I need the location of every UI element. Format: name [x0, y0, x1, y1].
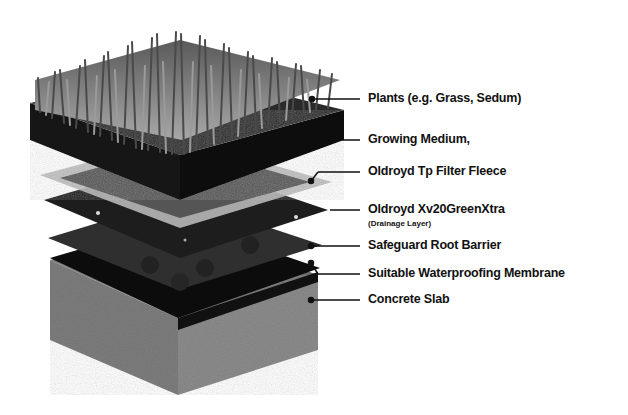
- green-roof-diagram: Plants (e.g. Grass, Sedum) Growing Mediu…: [0, 0, 628, 415]
- sublabel-drainage: (Drainage Layer): [368, 219, 431, 228]
- layer-stack-illustration: [0, 0, 628, 415]
- label-filter-fleece: Oldroyd Tp Filter Fleece: [368, 164, 506, 178]
- label-growing-medium: Growing Medium,: [368, 132, 470, 146]
- label-root-barrier: Safeguard Root Barrier: [368, 238, 501, 252]
- label-plants: Plants (e.g. Grass, Sedum): [368, 91, 521, 105]
- label-drainage: Oldroyd Xv20GreenXtra: [368, 202, 505, 216]
- label-waterproofing: Suitable Waterproofing Membrane: [368, 266, 565, 280]
- label-concrete-slab: Concrete Slab: [368, 292, 449, 306]
